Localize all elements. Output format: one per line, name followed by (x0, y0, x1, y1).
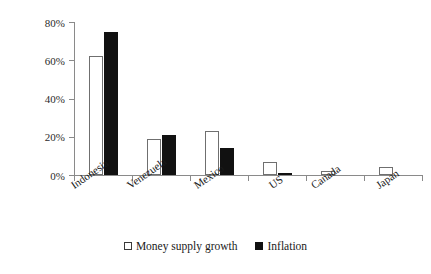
x-axis-tick (422, 176, 423, 181)
chart-legend: Money supply growthInflation (0, 240, 431, 252)
x-axis-tick (364, 176, 365, 181)
bar-group (364, 22, 422, 175)
filled-square-icon (255, 242, 263, 250)
y-axis-tick-label: 80% (45, 17, 65, 28)
hollow-square-icon (124, 242, 132, 250)
y-axis-tick-label: 0% (50, 170, 65, 181)
y-axis-tick-label: 20% (45, 132, 65, 143)
legend-label: Money supply growth (136, 240, 238, 252)
bar-group (248, 22, 306, 175)
legend-label: Inflation (267, 240, 307, 252)
bar-group (190, 22, 248, 175)
bar-indonesia-inflation (104, 32, 118, 175)
legend-entry-money-supply-growth: Money supply growth (124, 240, 238, 252)
bar-us-money-supply-growth (263, 162, 277, 175)
bar-group (74, 22, 132, 175)
x-axis-tick (248, 176, 249, 181)
bar-group (132, 22, 190, 175)
x-axis-label-us: US (267, 174, 285, 191)
bar-group (306, 22, 364, 175)
y-axis-tick-label: 40% (45, 94, 65, 105)
bar-venezuela-inflation (162, 135, 176, 175)
plot-area (74, 22, 422, 175)
legend-entry-inflation: Inflation (255, 240, 307, 252)
bar-chart: 0%20%40%60%80% IndonesiaVenezuelaMexicoU… (0, 0, 431, 274)
y-axis-tick-label: 60% (45, 55, 65, 66)
x-axis-tick (306, 176, 307, 181)
